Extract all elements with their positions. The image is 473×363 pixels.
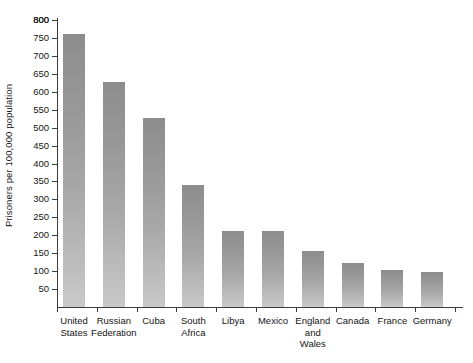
bar — [222, 231, 244, 307]
bar — [262, 231, 284, 307]
bar — [63, 34, 85, 307]
bar-chart: Prisoners per 100,000 population 5010015… — [0, 0, 473, 363]
y-tick-mark — [52, 110, 57, 111]
x-tick-mark — [57, 307, 58, 312]
y-tick-label: 500 — [33, 122, 49, 133]
y-tick-mark — [52, 253, 57, 254]
x-tick-mark — [176, 307, 177, 312]
x-axis-category-line: Wales — [282, 338, 344, 350]
y-tick-label: 700 — [33, 50, 49, 61]
y-tick-mark — [52, 289, 57, 290]
y-tick-label: 300 — [33, 193, 49, 204]
x-tick-mark — [97, 307, 98, 312]
x-axis-category-line: Federation — [83, 327, 145, 339]
y-tick-label: 600 — [33, 86, 49, 97]
x-axis-category-line: and — [282, 327, 344, 339]
y-tick-mark — [52, 271, 57, 272]
y-tick-label: 50 — [38, 283, 49, 294]
y-tick-label: 450 — [33, 140, 49, 151]
x-axis-category-line: Germany — [401, 315, 463, 327]
plot-area: 5010015020025030035040045050055060065070… — [57, 20, 463, 307]
y-tick-mark — [52, 181, 57, 182]
x-tick-mark — [216, 307, 217, 312]
y-tick-label: 400 — [33, 158, 49, 169]
y-tick-mark — [52, 20, 57, 21]
x-axis-category-label: Germany — [401, 315, 463, 327]
y-axis-title: Prisoners per 100,000 population — [0, 0, 18, 310]
y-axis-title-text: Prisoners per 100,000 population — [4, 83, 15, 226]
bar — [302, 251, 324, 307]
x-tick-mark — [336, 307, 337, 312]
x-tick-mark — [415, 307, 416, 312]
y-tick-mark — [52, 164, 57, 165]
bar — [182, 185, 204, 307]
y-tick-mark — [52, 38, 57, 39]
y-tick-mark — [52, 56, 57, 57]
x-tick-mark — [296, 307, 297, 312]
bar — [342, 263, 364, 307]
y-tick-label: 250 — [33, 211, 49, 222]
x-tick-mark — [375, 307, 376, 312]
y-tick-label: 750 — [33, 32, 49, 43]
x-axis-line — [57, 307, 463, 308]
y-tick-mark — [52, 199, 57, 200]
y-tick-label: 550 — [33, 104, 49, 115]
y-tick-mark — [52, 128, 57, 129]
x-tick-mark — [455, 307, 456, 312]
y-tick-label: 800 — [33, 14, 49, 25]
y-tick-label: 150 — [33, 247, 49, 258]
y-tick-label: 350 — [33, 175, 49, 186]
bar — [381, 270, 403, 307]
x-tick-mark — [137, 307, 138, 312]
x-tick-mark — [256, 307, 257, 312]
y-tick-mark — [52, 92, 57, 93]
bar — [103, 82, 125, 307]
y-tick-mark — [52, 146, 57, 147]
bar — [421, 272, 443, 307]
y-tick-label: 100 — [33, 265, 49, 276]
y-tick-label: 650 — [33, 68, 49, 79]
y-tick-mark — [52, 74, 57, 75]
y-tick-mark — [52, 235, 57, 236]
bar — [143, 118, 165, 307]
y-tick-label: 200 — [33, 229, 49, 240]
y-tick-mark — [52, 217, 57, 218]
x-axis-category-line: Africa — [162, 327, 224, 339]
